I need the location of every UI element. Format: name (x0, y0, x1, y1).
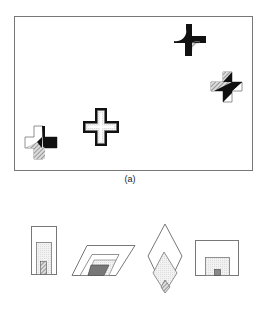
diamond-shape (148, 224, 182, 293)
parallelogram-shape (72, 246, 135, 276)
tall-rectangle-shape (32, 227, 57, 275)
figure (0, 0, 260, 323)
figure-caption: (a) (0, 174, 260, 184)
wide-rectangle-shape (196, 241, 239, 276)
